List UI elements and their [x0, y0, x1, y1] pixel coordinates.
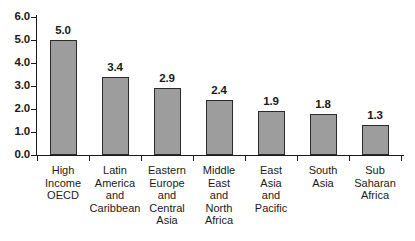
bar[interactable]	[206, 100, 233, 155]
y-axis-tick-label: 6.0	[4, 11, 30, 23]
bar-value-label: 1.3	[349, 110, 401, 122]
category-label-line: East	[189, 177, 249, 190]
category-label-line: Latin	[85, 164, 145, 177]
x-axis-tick	[37, 156, 38, 161]
category-label-line: North	[189, 202, 249, 215]
bar-value-label: 1.9	[245, 96, 297, 108]
y-axis-tick-label: 4.0	[4, 57, 30, 69]
category-label-line: East	[241, 164, 301, 177]
category-label-line: and	[241, 189, 301, 202]
category-label-line: and	[137, 189, 197, 202]
bar-value-label: 2.9	[141, 73, 193, 85]
bar-value-label: 1.8	[297, 99, 349, 111]
bar[interactable]	[102, 77, 129, 155]
y-axis-tick-label: 3.0	[4, 80, 30, 92]
category-label-line: Central	[137, 202, 197, 215]
x-axis-tick	[401, 156, 402, 161]
category-label-line: Saharan	[345, 177, 405, 190]
category-label-line: Pacific	[241, 202, 301, 215]
x-axis-tick	[245, 156, 246, 161]
category-label-line: and	[85, 189, 145, 202]
category-label-line: Middle	[189, 164, 249, 177]
x-axis-category-label: Eastern Europe and Central Asia	[137, 164, 197, 227]
x-axis-tick	[297, 156, 298, 161]
category-label-line: Asia	[137, 214, 197, 227]
x-axis-tick	[349, 156, 350, 161]
y-axis-tick-label: 5.0	[4, 34, 30, 46]
x-axis-category-label: Latin America and Caribbean	[85, 164, 145, 214]
category-label-line: Asia	[293, 177, 353, 190]
category-label-line: Caribbean	[85, 202, 145, 215]
category-label-line: High	[33, 164, 93, 177]
category-label-line: Sub	[345, 164, 405, 177]
x-axis-category-label: East Asia and Pacific	[241, 164, 301, 214]
x-axis-category-label: High Income OECD	[33, 164, 93, 202]
category-label-line: Asia	[241, 177, 301, 190]
x-axis-category-label: Sub Saharan Africa	[345, 164, 405, 202]
category-label-line: South	[293, 164, 353, 177]
category-label-line: Africa	[345, 189, 405, 202]
category-label-line: Eastern	[137, 164, 197, 177]
x-axis-tick	[89, 156, 90, 161]
x-axis-tick	[193, 156, 194, 161]
bar-value-label: 5.0	[37, 25, 89, 37]
category-label-line: Africa	[189, 214, 249, 227]
bar[interactable]	[154, 88, 181, 155]
y-axis-tick-label: 2.0	[4, 103, 30, 115]
bar-value-label: 2.4	[193, 85, 245, 97]
bar-chart: 6.0 5.0 4.0 3.0 2.0 1.0 0.0	[0, 0, 415, 241]
category-label-line: America	[85, 177, 145, 190]
category-label-line: OECD	[33, 189, 93, 202]
y-axis-tick-label: 0.0	[4, 149, 30, 161]
bar-value-label: 3.4	[89, 62, 141, 74]
bar[interactable]	[258, 111, 285, 155]
x-axis-category-label: South Asia	[293, 164, 353, 189]
bar[interactable]	[362, 125, 389, 155]
bar[interactable]	[50, 40, 77, 155]
x-axis-category-label: Middle East and North Africa	[189, 164, 249, 227]
x-axis-tick	[141, 156, 142, 161]
category-label-line: and	[189, 189, 249, 202]
y-axis-tick-label: 1.0	[4, 126, 30, 138]
category-label-line: Income	[33, 177, 93, 190]
bar[interactable]	[310, 114, 337, 155]
category-label-line: Europe	[137, 177, 197, 190]
